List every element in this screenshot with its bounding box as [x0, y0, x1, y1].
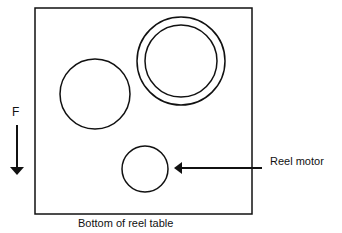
pointer-arrow-icon — [174, 162, 262, 174]
reel-motor-label: Reel motor — [270, 155, 324, 167]
force-arrow-icon — [10, 125, 24, 175]
reel-table-diagram — [0, 0, 342, 233]
right-reel-inner-circle — [145, 25, 217, 97]
diagram-caption: Bottom of reel table — [78, 217, 173, 229]
force-label: F — [12, 105, 19, 119]
reel-motor-circle — [122, 146, 168, 192]
right-reel-outer-circle — [137, 17, 225, 105]
left-reel-circle — [60, 59, 130, 129]
